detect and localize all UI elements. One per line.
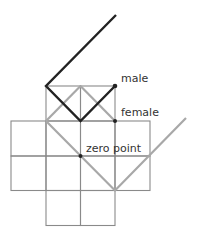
- female-label: female: [121, 106, 159, 119]
- grid-cell: [11, 121, 46, 156]
- female-point: [113, 119, 117, 123]
- grid-cell: [11, 156, 46, 191]
- grid-cell: [46, 191, 81, 226]
- grid-cell: [46, 156, 81, 191]
- male-point: [113, 84, 118, 89]
- male-label: male: [121, 72, 149, 85]
- grid-cell: [81, 191, 116, 226]
- zero-point: [79, 154, 83, 158]
- diagram-canvas: male female zero point: [0, 0, 200, 232]
- female-path: [46, 86, 186, 191]
- zero-point-label: zero point: [86, 142, 142, 155]
